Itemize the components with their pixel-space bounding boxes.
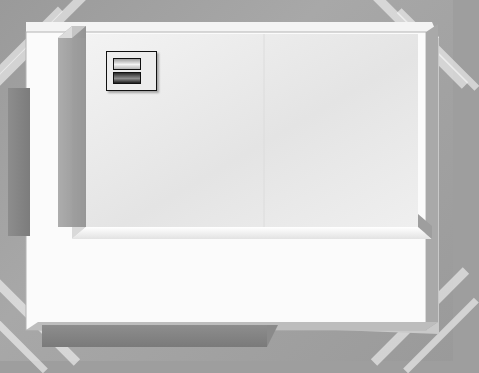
chart-container: [14, 18, 439, 345]
chart-legend: [106, 51, 157, 91]
x-axis-title: [42, 325, 267, 347]
legend-swatch-bad-icon: [113, 72, 141, 84]
y-axis-wall: [58, 26, 86, 239]
legend-item-mostly-good: [113, 58, 148, 70]
y-axis-title: [8, 88, 30, 236]
legend-swatch-good-icon: [113, 58, 141, 70]
legend-item-mostly-bad: [113, 72, 148, 84]
area-chart: [14, 18, 439, 345]
